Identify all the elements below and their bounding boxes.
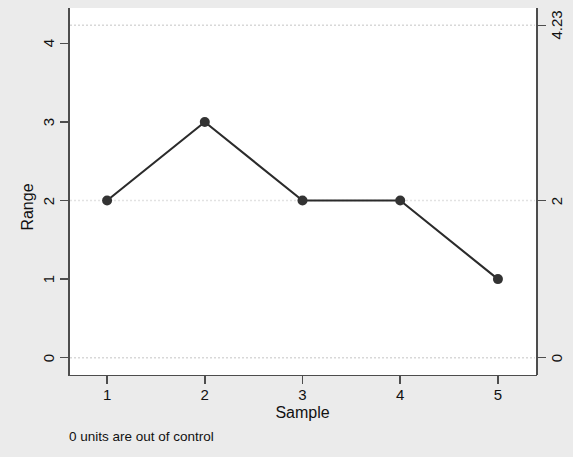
data-point xyxy=(298,196,308,206)
x-tick xyxy=(302,376,304,384)
y-tick-label: 2 xyxy=(38,191,58,211)
y2-tick-label: 4.23 xyxy=(545,14,567,36)
x-tick-label: 3 xyxy=(283,386,323,403)
y-tick xyxy=(60,200,68,202)
y-tick xyxy=(60,121,68,123)
y2-tick-label-text: 0 xyxy=(548,354,565,362)
control-limit-lines xyxy=(70,25,535,357)
x-tick xyxy=(497,376,499,384)
y-tick-label: 3 xyxy=(38,112,58,132)
y2-axis-line xyxy=(536,8,538,375)
x-tick-label: 4 xyxy=(380,386,420,403)
y-tick-label-text: 4 xyxy=(40,39,57,47)
y-tick-label-text: 0 xyxy=(40,354,57,362)
x-tick xyxy=(106,376,108,384)
plot-canvas xyxy=(68,8,537,375)
y-axis-title-text: Range xyxy=(19,183,37,230)
y2-tick-label: 0 xyxy=(545,347,567,369)
y-tick-label: 4 xyxy=(38,33,58,53)
data-point xyxy=(395,196,405,206)
data-point xyxy=(493,274,503,284)
data-point xyxy=(200,117,210,127)
plot-area xyxy=(68,8,537,375)
y-axis-title: Range xyxy=(16,167,40,247)
y-axis-line xyxy=(68,8,70,375)
x-tick-label: 5 xyxy=(478,386,518,403)
y-tick-label: 1 xyxy=(38,269,58,289)
y-tick-label-text: 3 xyxy=(40,118,57,126)
y-tick xyxy=(60,357,68,359)
data-point xyxy=(102,196,112,206)
x-tick-label: 2 xyxy=(185,386,225,403)
control-chart-figure: 01234 024.23 12345 Range Sample 0 units … xyxy=(0,0,573,457)
x-axis-title: Sample xyxy=(68,404,537,422)
y-tick-label-text: 2 xyxy=(40,196,57,204)
y-tick xyxy=(60,43,68,45)
y-tick-label-text: 1 xyxy=(40,275,57,283)
out-of-control-note: 0 units are out of control xyxy=(69,429,214,444)
x-tick xyxy=(204,376,206,384)
x-tick xyxy=(399,376,401,384)
x-tick-label: 1 xyxy=(87,386,127,403)
y2-tick-label: 2 xyxy=(545,190,567,212)
y2-tick-label-text: 4.23 xyxy=(548,11,565,40)
y-tick-label: 0 xyxy=(38,348,58,368)
y2-tick-label-text: 2 xyxy=(548,196,565,204)
y-tick xyxy=(60,278,68,280)
